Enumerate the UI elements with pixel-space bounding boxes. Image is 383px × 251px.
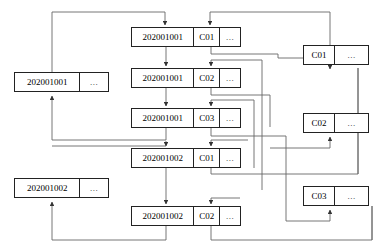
posting-ellipsis: ... — [219, 69, 240, 87]
list-item[interactable]: C02 ... — [303, 113, 369, 133]
diagram-canvas: 202001001 ... 202001002 ... 202001001 C0… — [0, 0, 383, 251]
wire-into-post2-code — [211, 60, 262, 66]
doc-ellipsis: ... — [79, 179, 108, 197]
posting-ellipsis: ... — [219, 109, 240, 127]
category-ellipsis: ... — [334, 114, 368, 132]
posting-doc-id: 202001001 — [132, 69, 193, 87]
posting-code: C01 — [193, 28, 219, 46]
category-ellipsis: ... — [334, 187, 368, 205]
posting-ellipsis: ... — [219, 28, 240, 46]
category-code-value: C01 — [304, 46, 334, 64]
list-item[interactable]: 202001002 ... — [14, 178, 109, 198]
wire-bottom-left-loop — [52, 226, 166, 240]
wire-cat2-right-riser — [358, 100, 369, 113]
list-item[interactable]: 202001002 C01 ... — [131, 148, 241, 168]
posting-doc-id: 202001001 — [132, 28, 193, 46]
posting-doc-id: 202001002 — [132, 207, 193, 225]
posting-ellipsis: ... — [219, 149, 240, 167]
doc-ellipsis: ... — [79, 73, 108, 91]
list-item[interactable]: 202001001 ... — [14, 72, 109, 92]
posting-code: C02 — [193, 207, 219, 225]
list-item[interactable]: 202001001 C01 ... — [131, 27, 241, 47]
wire-into-post4-code — [211, 140, 248, 146]
posting-doc-id: 202001001 — [132, 109, 193, 127]
doc-id-value: 202001002 — [15, 179, 79, 197]
posting-ellipsis: ... — [219, 207, 240, 225]
wire-cat1-out — [254, 65, 369, 85]
list-item[interactable]: C03 ... — [303, 186, 369, 206]
list-item[interactable]: C01 ... — [303, 45, 369, 65]
list-item[interactable]: 202001001 C02 ... — [131, 68, 241, 88]
posting-doc-id: 202001002 — [132, 149, 193, 167]
doc-id-value: 202001001 — [15, 73, 79, 91]
posting-code: C03 — [193, 109, 219, 127]
wire-into-post3-code — [211, 100, 254, 106]
category-code-value: C03 — [304, 187, 334, 205]
wire-into-post5-code — [211, 198, 240, 204]
posting-code: C01 — [193, 149, 219, 167]
posting-code: C02 — [193, 69, 219, 87]
list-item[interactable]: 202001001 C03 ... — [131, 108, 241, 128]
category-code-value: C02 — [304, 114, 334, 132]
list-item[interactable]: 202001002 C02 ... — [131, 206, 241, 226]
wire-post3-to-left — [52, 128, 166, 140]
category-ellipsis: ... — [334, 46, 368, 64]
